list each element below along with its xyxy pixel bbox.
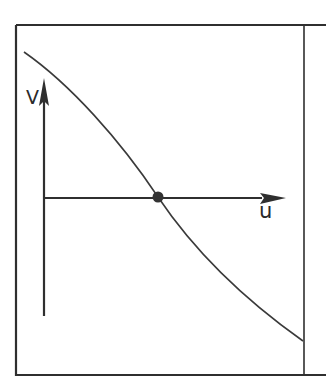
u-axis-label: u bbox=[259, 199, 272, 223]
diagram-canvas: V u bbox=[0, 0, 326, 392]
u-axis bbox=[44, 193, 286, 204]
v-axis-label: V bbox=[26, 86, 39, 108]
curve bbox=[24, 52, 303, 341]
intersection-dot bbox=[153, 192, 164, 203]
